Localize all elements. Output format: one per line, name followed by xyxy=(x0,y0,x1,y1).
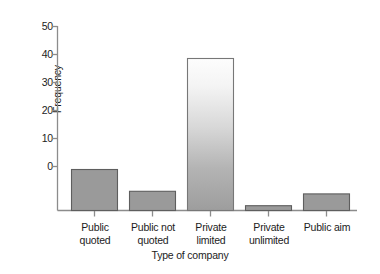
x-tick-label-line2: unlimited xyxy=(232,234,306,247)
bar-chart-figure: Frequency 50 40 30 20 10 0 xyxy=(0,0,380,274)
x-axis-ticks xyxy=(95,211,327,217)
x-axis-title: Type of company xyxy=(0,249,380,261)
x-tick-label-line1: Public aim xyxy=(292,221,362,234)
bar-private-limited xyxy=(188,59,234,211)
y-axis-ticks xyxy=(52,27,58,264)
bar-public-aim xyxy=(304,194,350,211)
bar-public-quoted xyxy=(72,170,118,211)
bar-private-unlimited xyxy=(246,206,292,211)
bar-public-not-quoted xyxy=(130,191,176,210)
x-tick-label-public-aim: Public aim xyxy=(292,221,362,234)
